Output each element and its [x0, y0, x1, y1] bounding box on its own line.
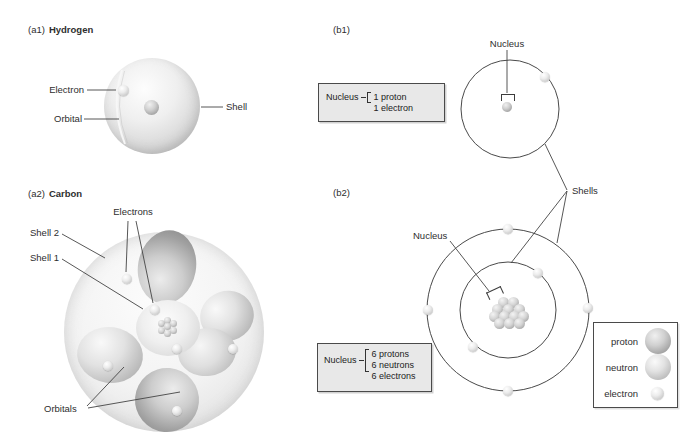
- legend-row-neutron: neutron: [594, 354, 677, 380]
- hydrogen-shell-label: Shell: [226, 101, 247, 113]
- nucleon-sphere: [164, 323, 171, 330]
- b2-infobox-dash: [359, 360, 364, 361]
- nucleon-sphere: [164, 330, 171, 337]
- legend-electron-slot: [644, 387, 671, 400]
- b1-infobox-bracket: [367, 92, 371, 103]
- b2-electron-dot: [503, 224, 513, 234]
- legend-neutron-slot: [644, 354, 671, 380]
- panel-b1-tag: (b1): [333, 24, 350, 36]
- b2-electron-dot: [533, 268, 543, 278]
- carbon-orbitals-label: Orbitals: [44, 403, 77, 415]
- b2-infobox-line: 6 protons: [372, 349, 416, 360]
- legend-row-electron: electron: [594, 380, 677, 406]
- b2-electron-dot: [583, 303, 593, 313]
- b2-infobox-line: 6 neutrons: [372, 360, 416, 371]
- carbon-electrons-label: Electrons: [103, 206, 163, 218]
- carbon-electron-dot: [172, 344, 182, 354]
- b2-electron-dot: [423, 305, 433, 315]
- panel-a2-tag: (a2): [28, 188, 45, 199]
- hydrogen-electron-dot: [118, 85, 129, 96]
- nucleon-sphere: [514, 318, 525, 329]
- nucleon-sphere: [170, 320, 177, 327]
- b2-electron-dot: [468, 342, 478, 352]
- panel-a2-title: (a2)Carbon: [28, 188, 82, 200]
- shells-leader-line-inner: [511, 191, 567, 263]
- b1-infobox-dash: [361, 97, 366, 98]
- b1-infobox-line: 1 electron: [374, 103, 414, 114]
- shells-leader-line-outer: [557, 191, 567, 243]
- b1-nucleus-label: Nucleus: [482, 38, 532, 50]
- legend-neutron-label: neutron: [606, 362, 638, 373]
- b1-nucleus-bracket-mark: [501, 94, 515, 101]
- b1-nucleus-infobox: Nucleus 1 proton 1 electron: [318, 83, 445, 122]
- hydrogen-electron-label: Electron: [34, 84, 84, 96]
- b2-nucleus-cluster: [489, 297, 532, 332]
- b1-electron-dot: [540, 72, 550, 82]
- b2-electron-dot: [503, 386, 513, 396]
- b1-infobox-label: Nucleus: [326, 92, 359, 103]
- proton-sphere-icon: [645, 328, 671, 354]
- b2-nucleus-leader-line: [450, 241, 489, 291]
- legend-proton-label: proton: [611, 336, 638, 347]
- legend-electron-label: electron: [604, 388, 638, 399]
- carbon-electron-dot: [172, 406, 182, 416]
- shell2-leader-line: [62, 234, 105, 258]
- carbon-electron-dot: [103, 361, 113, 371]
- b2-infobox-line: 6 electrons: [372, 371, 416, 382]
- atomic-structure-figure: (a1)Hydrogen (a2)Carbon (b1) (b2) Electr…: [0, 0, 700, 438]
- panel-a1-name: Hydrogen: [49, 24, 93, 35]
- hydrogen-orbital-label: Orbital: [30, 113, 82, 125]
- panel-a2-name: Carbon: [49, 188, 82, 199]
- panel-a1-title: (a1)Hydrogen: [28, 24, 93, 36]
- b2-infobox-label: Nucleus: [324, 355, 357, 366]
- carbon-electron-dot: [150, 305, 160, 315]
- particle-legend: proton neutron electron: [593, 322, 678, 408]
- b2-nucleus-infobox: Nucleus 6 protons 6 neutrons 6 electrons: [317, 343, 432, 392]
- hydrogen-nucleus-sphere: [144, 100, 159, 115]
- b2-nucleus-label: Nucleus: [413, 230, 447, 242]
- carbon-shell2-label: Shell 2: [30, 227, 59, 239]
- shells-label: Shells: [572, 185, 598, 197]
- carbon-electron-dot: [228, 344, 238, 354]
- legend-proton-slot: [644, 328, 671, 354]
- neutron-sphere-icon: [645, 354, 671, 380]
- panel-b2-tag: (b2): [333, 187, 350, 199]
- b1-proton-dot: [502, 102, 512, 112]
- nucleon-sphere: [170, 327, 177, 334]
- shells-leader-line-b1: [545, 144, 567, 190]
- carbon-shell1-label: Shell 1: [30, 252, 59, 264]
- b1-infobox-line: 1 proton: [374, 92, 414, 103]
- carbon-nucleus-cluster: [157, 317, 178, 337]
- panel-a1-tag: (a1): [28, 24, 45, 35]
- carbon-electron-dot: [122, 274, 132, 284]
- legend-row-proton: proton: [594, 328, 677, 354]
- b2-infobox-bracket: [365, 349, 369, 372]
- electron-sphere-icon: [651, 387, 664, 400]
